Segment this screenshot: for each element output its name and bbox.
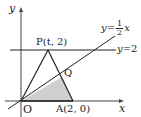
origin-label: O — [23, 104, 32, 115]
line-half-x-eq: = — [107, 22, 115, 33]
x-axis-label: x — [119, 103, 125, 114]
fraction-denominator: 2 — [117, 29, 122, 37]
line-half-x-label: y=12x — [101, 20, 130, 37]
point-q-label: Q — [64, 68, 72, 78]
line-y2-rhs: 2 — [131, 43, 137, 54]
y-axis-arrow-icon — [19, 7, 23, 12]
shaded-triangle-oqa — [21, 77, 73, 101]
diagram-canvas — [0, 0, 141, 117]
y-axis-label: y — [9, 3, 15, 14]
point-a-label: A(2, 0) — [56, 104, 90, 114]
fraction-one-half: 12 — [116, 20, 123, 37]
line-y2-label: y=2 — [117, 44, 137, 54]
coordinate-diagram: y x O P(t, 2) A(2, 0) Q y=2 y=12x — [0, 0, 141, 117]
point-p-label: P(t, 2) — [36, 37, 67, 47]
line-half-x-var: x — [124, 22, 130, 33]
line-y2-eq: = — [123, 43, 131, 54]
